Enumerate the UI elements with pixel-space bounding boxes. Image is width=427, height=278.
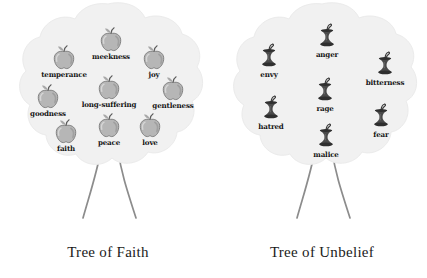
fruit-layer-faith: meekness temperance xyxy=(8,0,208,190)
fruit-label: rage xyxy=(316,104,333,113)
fruit-label: malice xyxy=(313,150,338,159)
fruit-label: meekness xyxy=(92,52,130,61)
fruit-label: anger xyxy=(316,50,338,59)
fruit-label: joy xyxy=(149,70,160,79)
fruit-label: gentleness xyxy=(152,101,193,110)
tree-title-faith: Tree of Faith xyxy=(8,244,208,261)
fruit-layer-unbelief: anger envy xyxy=(222,0,422,190)
fruit-label: long-suffering xyxy=(82,100,137,109)
fruit-label: peace xyxy=(98,138,120,147)
fruit-label: bitterness xyxy=(366,78,405,87)
tree-title-unbelief: Tree of Unbelief xyxy=(222,244,422,261)
fruit-label: envy xyxy=(260,70,277,79)
fruit-label: temperance xyxy=(41,70,87,79)
fruit-label: hatred xyxy=(258,122,283,131)
tree-of-faith: meekness temperance xyxy=(8,0,208,278)
tree-of-unbelief: anger envy xyxy=(222,0,422,278)
tree-comparison-figure: meekness temperance xyxy=(0,0,427,278)
fruit-label: faith xyxy=(57,144,75,153)
fruit-label: fear xyxy=(373,130,388,139)
fruit-label: love xyxy=(142,138,157,147)
fruit-label: goodness xyxy=(30,109,66,118)
